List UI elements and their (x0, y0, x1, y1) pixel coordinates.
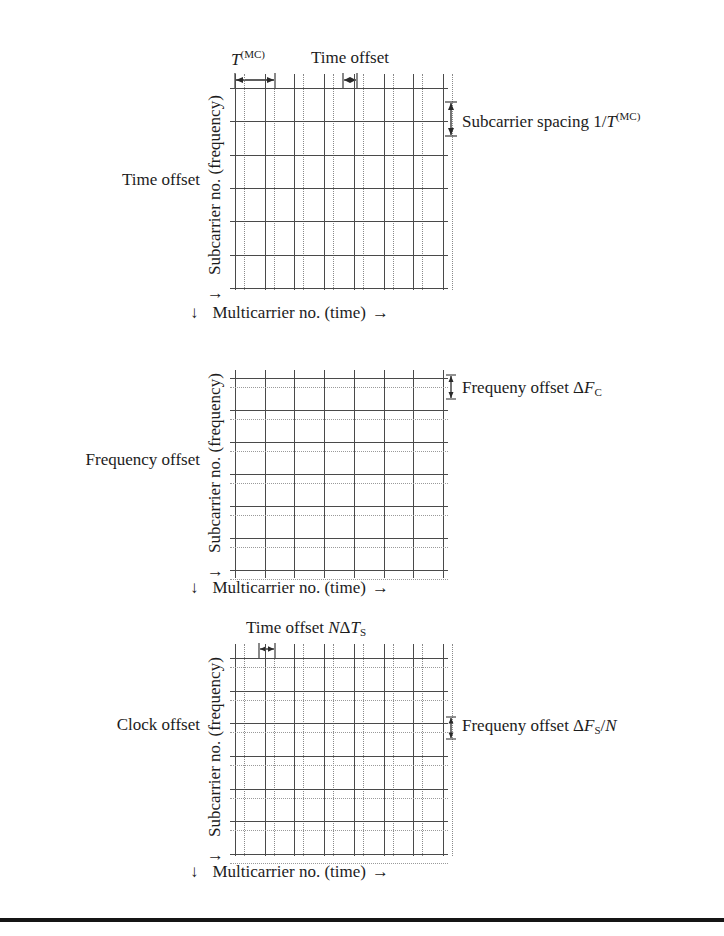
grid-hline-offset (230, 830, 448, 831)
grid-vline-offset (274, 74, 275, 290)
grid-hline (230, 474, 448, 475)
freq-offset-subscript-panel2: C (594, 386, 601, 398)
x-axis-text-panel1: Multicarrier no. (time) (213, 303, 366, 322)
x-axis-arrow-end-panel1: → (372, 303, 389, 322)
y-axis-arrow-panel2: ↓ (205, 570, 224, 579)
subcarrier-spacing-superscript: (MC) (616, 110, 640, 122)
x-axis-text-panel2: Multicarrier no. (time) (213, 578, 366, 597)
grid-hline-offset (230, 387, 448, 388)
x-axis-label-panel2: ↓Multicarrier no. (time)→ (190, 578, 389, 598)
grid-vline-offset (333, 644, 334, 856)
grid-hline (230, 288, 448, 289)
label-time-offset-panel3: Time offset NΔTS (246, 618, 366, 638)
grid-vline (354, 644, 355, 856)
y-axis-label-panel1: ↓ Subcarrier no. (frequency) (205, 95, 225, 300)
grid-vline-offset (303, 74, 304, 290)
grid-hline (230, 88, 448, 89)
grid-hline (230, 378, 448, 379)
grid-vline-offset (393, 644, 394, 856)
freq-offset-symbol-panel3: F (584, 716, 594, 735)
grid-hline (230, 756, 448, 757)
grid-vline (294, 74, 295, 290)
grid-vline-offset (303, 644, 304, 856)
grid-hline (230, 658, 448, 659)
grid-hline (230, 854, 448, 855)
grid-hline (230, 442, 448, 443)
arrow-frequency-offset-panel3 (444, 716, 458, 744)
grid-hline-offset (230, 419, 448, 420)
x-axis-arrow-end-panel2: → (372, 578, 389, 597)
grid-hline (230, 121, 448, 122)
x-axis-label-panel3: ↓Multicarrier no. (time)→ (190, 862, 389, 882)
grid-hline (230, 821, 448, 822)
y-axis-text-panel1: Subcarrier no. (frequency) (205, 95, 224, 275)
grid-hline (230, 255, 448, 256)
label-time-offset-panel1: Time offset (311, 48, 389, 68)
grid-panel1 (235, 88, 443, 288)
time-offset-delta-panel3: Δ (340, 618, 351, 637)
row-caption-clock-offset: Clock offset (40, 715, 200, 735)
x-axis-arrow-start-panel1: ↓ (190, 303, 199, 322)
grid-vline (354, 74, 355, 290)
grid-hline (230, 410, 448, 411)
grid-hline (230, 789, 448, 790)
grid-hline (230, 155, 448, 156)
grid-vline-offset (244, 74, 245, 290)
label-frequency-offset-panel2: Frequeny offset ΔFC (462, 378, 602, 398)
grid-vline-offset (333, 74, 334, 290)
freq-offset-prefix-panel2: Frequeny offset Δ (462, 378, 584, 397)
grid-hline-offset (230, 547, 448, 548)
grid-vline-offset (422, 644, 423, 856)
grid-vline (324, 644, 325, 856)
grid-hline (230, 506, 448, 507)
grid-hline (230, 221, 448, 222)
row-caption-time-offset: Time offset (40, 170, 200, 190)
x-axis-text-panel3: Multicarrier no. (time) (213, 862, 366, 881)
grid-vline-offset (244, 644, 245, 856)
grid-hline (230, 570, 448, 571)
row-caption-frequency-offset: Frequency offset (20, 450, 200, 470)
x-axis-label-panel1: ↓Multicarrier no. (time)→ (190, 303, 389, 323)
grid-panel2 (235, 378, 443, 570)
arrow-frequency-offset-panel2 (444, 374, 458, 404)
grid-vline (413, 74, 414, 290)
grid-hline (230, 723, 448, 724)
subcarrier-spacing-prefix: Subcarrier spacing 1/ (462, 112, 606, 131)
freq-offset-symbol-panel2: F (584, 378, 594, 397)
time-offset-subscript-panel3: S (360, 626, 366, 638)
label-frequency-offset-panel3: Frequeny offset ΔFS/N (462, 716, 617, 736)
freq-offset-N-panel3: N (605, 716, 616, 735)
grid-hline (230, 691, 448, 692)
grid-vline (324, 74, 325, 290)
grid-panel3 (235, 658, 443, 854)
subcarrier-spacing-symbol: T (606, 112, 615, 131)
arrow-subcarrier-spacing-panel1 (444, 101, 458, 141)
y-axis-text-panel2: Subcarrier no. (frequency) (205, 373, 224, 553)
grid-vline (294, 644, 295, 856)
grid-vline (443, 644, 444, 856)
grid-hline-offset (230, 483, 448, 484)
grid-hline-offset (230, 732, 448, 733)
grid-hline-offset (230, 798, 448, 799)
x-axis-arrow-end-panel3: → (372, 862, 389, 881)
symbol-T-superscript-panel1: (MC) (240, 48, 264, 60)
grid-vline (265, 74, 266, 290)
page-bottom-rule (0, 918, 724, 922)
grid-vline-offset (363, 74, 364, 290)
grid-hline-offset (230, 700, 448, 701)
grid-hline (230, 538, 448, 539)
grid-hline-offset (230, 451, 448, 452)
grid-vline-offset (422, 74, 423, 290)
y-axis-arrow-panel1: ↓ (205, 292, 224, 301)
time-offset-N-panel3: N (328, 618, 339, 637)
grid-vline (413, 644, 414, 856)
grid-hline-offset (230, 667, 448, 668)
y-axis-label-panel2: ↓ Subcarrier no. (frequency) (205, 373, 225, 578)
x-axis-arrow-start-panel3: ↓ (190, 862, 199, 881)
grid-vline (384, 74, 385, 290)
time-offset-T-panel3: T (350, 618, 359, 637)
grid-vline (235, 644, 236, 856)
grid-hline-offset (230, 515, 448, 516)
grid-vline-offset (274, 644, 275, 856)
grid-vline (235, 74, 236, 290)
